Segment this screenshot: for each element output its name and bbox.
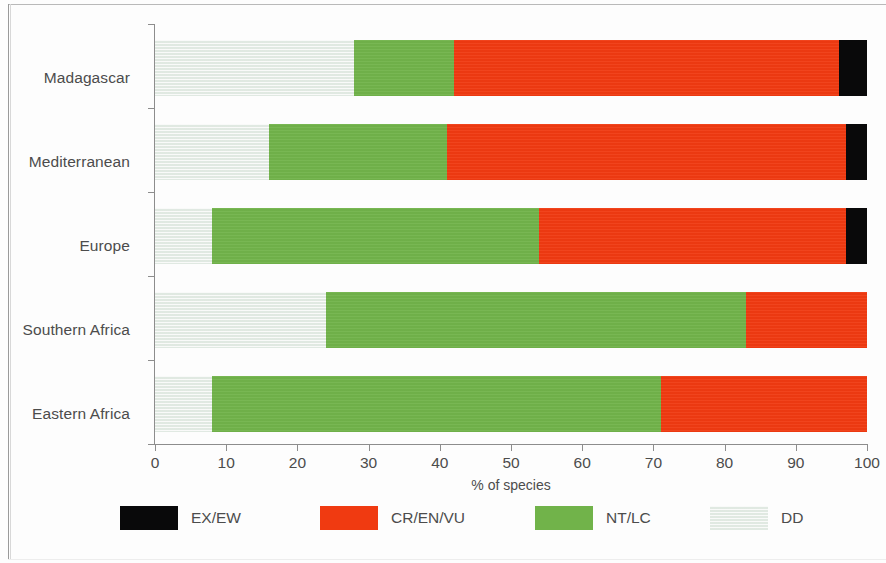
bar-segment-crenvu [447,124,846,180]
bar-segment-exew [839,40,867,96]
bar-segment-dd [155,292,326,348]
bar-segment-crenvu [746,292,867,348]
frame-bottom-border [8,559,886,560]
legend-item-exew: EX/EW [120,505,241,531]
legend-item-dd: DD [710,505,803,531]
bar-southern-africa [155,292,867,348]
category-axis-labels: Madagascar Mediterranean Europe Southern… [0,24,140,444]
bar-segment-crenvu [661,376,867,432]
x-axis-tick [867,444,868,451]
bar-mediterranean [155,124,867,180]
x-axis-tick-label: 90 [787,454,804,472]
bar-segment-ntlc [212,376,661,432]
bar-madagascar [155,40,867,96]
legend-swatch-dd [710,506,768,530]
x-axis-title: % of species [155,477,867,493]
bar-segment-ntlc [269,124,447,180]
y-axis-tick [148,24,155,25]
x-axis-tick-label: 10 [218,454,235,472]
legend-swatch-ntlc [535,506,593,530]
x-axis-tick-label: 70 [645,454,662,472]
bar-segment-crenvu [454,40,838,96]
x-axis-tick [297,444,298,451]
category-label-mediterranean: Mediterranean [29,154,130,170]
x-axis-tick [653,444,654,451]
bar-segment-crenvu [539,208,845,264]
x-axis-tick-label: 100 [854,454,880,472]
y-axis-tick [148,444,155,445]
x-axis-tick [369,444,370,451]
x-axis-tick-label: 80 [716,454,733,472]
y-axis-tick [148,192,155,193]
x-axis-tick [796,444,797,451]
y-axis-tick [148,108,155,109]
plot-area [155,24,867,444]
legend-item-crenvu: CR/EN/VU [320,505,465,531]
x-axis-tick [440,444,441,451]
chart-figure: Madagascar Mediterranean Europe Southern… [0,0,886,563]
bar-eastern-africa [155,376,867,432]
x-axis-tick-label: 40 [431,454,448,472]
x-axis-tick-label: 30 [360,454,377,472]
bar-segment-ntlc [326,292,746,348]
legend-item-ntlc: NT/LC [535,505,651,531]
bar-segment-ntlc [212,208,540,264]
category-label-southern-africa: Southern Africa [23,322,130,338]
x-axis-tick-label: 20 [289,454,306,472]
x-axis-tick-label: 60 [574,454,591,472]
x-axis-tick [511,444,512,451]
y-axis-tick [148,360,155,361]
category-label-madagascar: Madagascar [44,70,130,86]
bar-segment-dd [155,40,354,96]
x-axis-tick [725,444,726,451]
bar-segment-ntlc [354,40,454,96]
bar-segment-dd [155,376,212,432]
bar-europe [155,208,867,264]
legend-swatch-exew [120,506,178,530]
bar-segment-exew [846,124,867,180]
x-axis-tick [582,444,583,451]
x-axis-tick [226,444,227,451]
legend-label-ntlc: NT/LC [606,509,651,527]
category-label-eastern-africa: Eastern Africa [32,406,130,422]
y-axis-tick [148,276,155,277]
category-label-europe: Europe [79,238,130,254]
legend-label-exew: EX/EW [191,509,241,527]
legend-label-dd: DD [781,509,803,527]
bar-segment-dd [155,124,269,180]
legend-label-crenvu: CR/EN/VU [391,509,465,527]
x-axis-tick-label: 50 [502,454,519,472]
bar-segment-exew [846,208,867,264]
chart-legend: EX/EW CR/EN/VU NT/LC DD [120,505,820,535]
legend-swatch-crenvu [320,506,378,530]
x-axis-tick-label: 0 [151,454,160,472]
frame-top-border [8,4,886,5]
bar-segment-dd [155,208,212,264]
x-axis-tick [155,444,156,451]
